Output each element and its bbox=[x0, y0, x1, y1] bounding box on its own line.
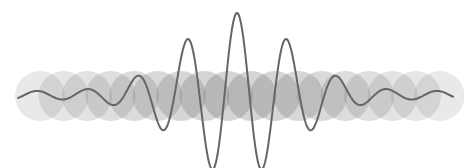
wave-graphic bbox=[0, 0, 466, 168]
translucent-circles bbox=[15, 71, 465, 121]
wave-illustration bbox=[0, 0, 466, 168]
